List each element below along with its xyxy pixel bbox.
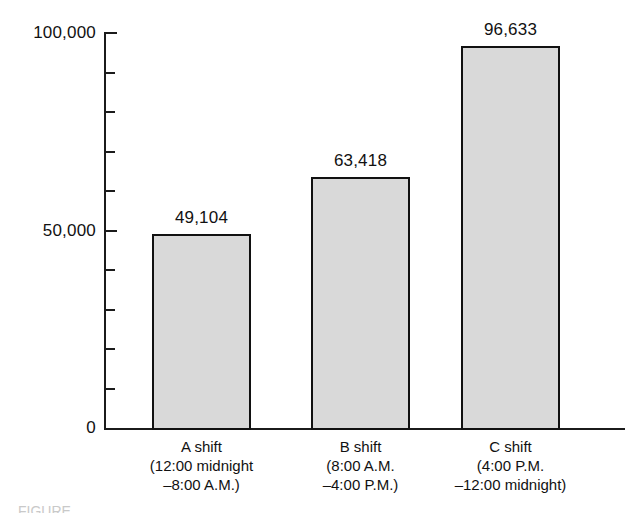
y-tick	[104, 348, 115, 350]
y-tick	[104, 72, 115, 74]
bar-chart: 100,00050,0000 49,10463,41896,633 A shif…	[0, 0, 640, 513]
bar	[311, 177, 410, 430]
y-axis-tick-label-text: 100,000	[33, 23, 96, 43]
bar	[461, 46, 560, 430]
caption-sliver: FIGURE	[18, 503, 71, 513]
x-axis-category-name: C shift	[399, 437, 622, 456]
y-tick	[104, 269, 115, 271]
y-tick	[104, 32, 117, 34]
y-tick	[104, 309, 115, 311]
y-tick	[104, 230, 117, 232]
y-axis-tick-label-text: 50,000	[43, 221, 96, 241]
bar-value-label: 63,418	[281, 151, 440, 171]
bar-value-label: 49,104	[122, 208, 281, 228]
bar	[152, 234, 251, 430]
y-tick	[104, 151, 115, 153]
x-axis-category-sublabel: –12:00 midnight)	[399, 475, 622, 494]
y-tick	[104, 111, 115, 113]
y-axis-tick-label-text: 0	[86, 418, 96, 438]
bar-value-label: 96,633	[431, 20, 590, 40]
x-axis-category-label: C shift(4:00 P.M.–12:00 midnight)	[399, 437, 622, 494]
y-tick	[104, 388, 115, 390]
x-axis-category-sublabel: (4:00 P.M.	[399, 456, 622, 475]
y-tick	[104, 190, 115, 192]
